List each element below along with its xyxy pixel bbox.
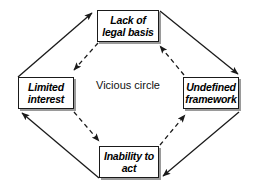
node-label-lack-of-legal-basis: Lack of legal basis <box>98 14 158 38</box>
edge-undefined-framework-to-lack-of-legal-basis-dashed <box>160 46 184 75</box>
vicious-circle-diagram: Lack of legal basis Limited interest Und… <box>0 0 255 191</box>
node-label-undefined-framework: Undefined framework <box>182 81 239 105</box>
node-undefined-framework[interactable]: Undefined framework <box>183 77 239 109</box>
edge-lack-of-legal-basis-to-undefined-framework <box>160 11 238 74</box>
edge-lack-of-legal-basis-to-limited-interest-dashed <box>74 43 98 70</box>
inner-dashed-arrows <box>74 43 185 145</box>
edge-inability-to-act-to-limited-interest <box>22 113 99 178</box>
edge-inability-to-act-to-undefined-framework-dashed <box>160 115 185 145</box>
edge-limited-interest-to-inability-to-act-dashed <box>74 112 99 141</box>
node-inability-to-act[interactable]: Inability to act <box>99 146 159 178</box>
node-limited-interest[interactable]: Limited interest <box>18 77 74 109</box>
node-label-limited-interest: Limited interest <box>19 81 73 105</box>
center-label-vicious-circle: Vicious circle <box>93 79 163 93</box>
node-lack-of-legal-basis[interactable]: Lack of legal basis <box>97 10 159 42</box>
node-label-inability-to-act: Inability to act <box>100 150 158 174</box>
edge-undefined-framework-to-inability-to-act <box>163 112 239 176</box>
edge-limited-interest-to-lack-of-legal-basis <box>18 13 92 77</box>
